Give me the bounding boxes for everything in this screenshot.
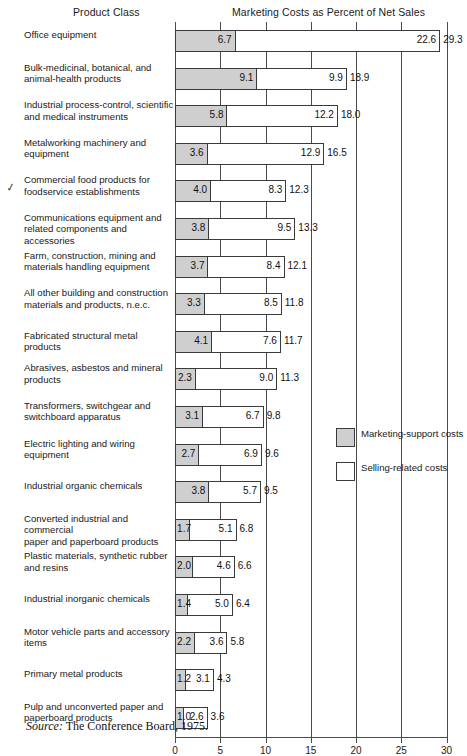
value-label-total: 13.3 <box>298 222 317 233</box>
legend-label: Selling-related costs <box>361 462 466 473</box>
category-label: Electric lighting and wiringequipment <box>24 438 176 461</box>
value-label-total: 9.6 <box>265 448 279 459</box>
value-label-total: 16.5 <box>327 147 346 158</box>
category-label-line: Fabricated structural metal products <box>24 330 176 353</box>
value-label-selling-related: 22.6 <box>236 34 437 45</box>
category-label-line: Office equipment <box>24 29 176 40</box>
chart-row[interactable]: Bulk-medicinal, botanical, andanimal-hea… <box>0 68 467 90</box>
x-tick-label-15: 15 <box>296 745 326 756</box>
value-label-marketing-support: 5.8 <box>175 109 223 120</box>
category-label-line: items <box>24 637 176 648</box>
category-label: Fabricated structural metal products <box>24 330 176 353</box>
category-label: Commercial food products forfoodservice … <box>24 174 176 197</box>
category-label-line: products <box>24 374 176 385</box>
category-label-line: Electric lighting and wiring <box>24 438 176 449</box>
chart-row[interactable]: Farm, construction, mining andmaterials … <box>0 256 467 278</box>
chart-row[interactable]: Plastic materials, synthetic rubberand r… <box>0 556 467 578</box>
chart-row[interactable]: Industrial process-control, scientifican… <box>0 105 467 127</box>
value-label-selling-related: 6.7 <box>203 410 260 421</box>
value-label-total: 18.9 <box>350 72 369 83</box>
value-label-marketing-support: 1.7 <box>175 523 191 534</box>
chart-row[interactable]: Fabricated structural metal products4.17… <box>0 331 467 353</box>
category-label: Plastic materials, synthetic rubberand r… <box>24 550 176 573</box>
category-label-line: Industrial organic chemicals <box>24 480 176 491</box>
chart-row[interactable]: Primary metal products1.23.14.3 <box>0 669 467 691</box>
value-label-marketing-support: 3.6 <box>175 147 204 158</box>
value-label-marketing-support: 3.7 <box>175 260 204 271</box>
category-label-line: foodservice establishments <box>24 186 176 197</box>
category-label-line: equipment <box>24 148 176 159</box>
category-label: Bulk-medicinal, botanical, andanimal-hea… <box>24 62 176 85</box>
category-label: Metalworking machinery andequipment <box>24 137 176 160</box>
category-label-line: and medical instruments <box>24 111 176 122</box>
category-label: Primary metal products <box>24 668 176 679</box>
category-label: Abrasives, asbestos and mineralproducts <box>24 362 176 385</box>
category-label-line: Metalworking machinery and <box>24 137 176 148</box>
chart-row[interactable]: Transformers, switchgear andswitchboard … <box>0 406 467 428</box>
category-label-line: Pulp and unconverted paper and <box>24 701 176 712</box>
value-label-marketing-support: 2.2 <box>175 636 191 647</box>
chart-row[interactable]: ✓Commercial food products forfoodservice… <box>0 180 467 202</box>
chart-row[interactable]: Converted industrial and commercialpaper… <box>0 519 467 541</box>
value-label-selling-related: 8.3 <box>211 184 282 195</box>
value-label-selling-related: 5.1 <box>190 523 232 534</box>
value-label-total: 6.8 <box>240 523 254 534</box>
value-label-selling-related: 3.6 <box>195 636 224 647</box>
value-label-total: 6.6 <box>238 560 252 571</box>
value-label-marketing-support: 2.3 <box>175 372 192 383</box>
check-mark-icon: ✓ <box>5 181 17 196</box>
value-label-marketing-support: 3.3 <box>175 297 201 308</box>
x-tick-label-25: 25 <box>386 745 416 756</box>
value-label-selling-related: 8.4 <box>208 260 280 271</box>
chart-row[interactable]: Office equipment6.722.629.3 <box>0 30 467 52</box>
chart-row[interactable]: Industrial inorganic chemicals1.45.06.4 <box>0 594 467 616</box>
value-label-total: 5.8 <box>230 636 244 647</box>
category-label-line: animal-health products <box>24 73 176 84</box>
category-label-line: switchboard apparatus <box>24 411 176 422</box>
category-label-line: and resins <box>24 562 176 573</box>
source-text: The Conference Board, 1975. <box>63 719 208 733</box>
value-label-selling-related: 4.6 <box>193 560 231 571</box>
value-label-marketing-support: 3.8 <box>175 485 205 496</box>
chart-row[interactable]: Metalworking machinery andequipment3.612… <box>0 143 467 165</box>
value-label-selling-related: 12.2 <box>227 109 333 120</box>
category-label-line: equipment <box>24 449 176 460</box>
x-tick-label-0: 0 <box>160 745 190 756</box>
category-label: Industrial organic chemicals <box>24 480 176 491</box>
legend-label: Marketing-support costs <box>361 428 466 439</box>
legend-swatch-selling <box>336 462 355 481</box>
x-axis-line <box>175 737 448 738</box>
value-label-marketing-support: 3.8 <box>175 222 205 233</box>
category-label-line: Farm, construction, mining and <box>24 250 176 261</box>
x-tick-label-30: 30 <box>432 745 462 756</box>
chart-row[interactable]: Abrasives, asbestos and mineralproducts2… <box>0 368 467 390</box>
legend-item[interactable]: Selling-related costs <box>336 462 467 486</box>
value-label-selling-related: 9.5 <box>209 222 291 233</box>
value-label-selling-related: 9.0 <box>196 372 273 383</box>
chart-row[interactable]: Motor vehicle parts and accessoryitems2.… <box>0 632 467 654</box>
source-note: Source: The Conference Board, 1975. <box>26 719 208 734</box>
category-label: All other building and constructionmater… <box>24 287 176 310</box>
source-prefix: Source: <box>26 719 63 733</box>
category-label-line: paper and paperboard products <box>24 536 176 547</box>
category-label: Converted industrial and commercialpaper… <box>24 513 176 547</box>
chart-row[interactable]: All other building and constructionmater… <box>0 293 467 315</box>
value-label-total: 11.8 <box>285 297 304 308</box>
category-label: Motor vehicle parts and accessoryitems <box>24 626 176 649</box>
chart-row[interactable]: Communications equipment andrelated comp… <box>0 218 467 240</box>
value-label-total: 12.1 <box>288 260 307 271</box>
value-label-marketing-support: 4.0 <box>175 184 207 195</box>
value-label-marketing-support: 2.7 <box>175 448 195 459</box>
category-label-line: materials and products, n.e.c. <box>24 299 176 310</box>
value-label-marketing-support: 3.1 <box>175 410 199 421</box>
category-label-line: Industrial process-control, scientific <box>24 99 176 110</box>
category-label-line: Converted industrial and commercial <box>24 513 176 536</box>
category-label-line: Plastic materials, synthetic rubber <box>24 550 176 561</box>
category-label: Industrial inorganic chemicals <box>24 593 176 604</box>
legend-item[interactable]: Marketing-support costs <box>336 428 467 452</box>
category-label-line: Industrial inorganic chemicals <box>24 593 176 604</box>
category-label: Industrial process-control, scientifican… <box>24 99 176 122</box>
category-label-line: All other building and construction <box>24 287 176 298</box>
